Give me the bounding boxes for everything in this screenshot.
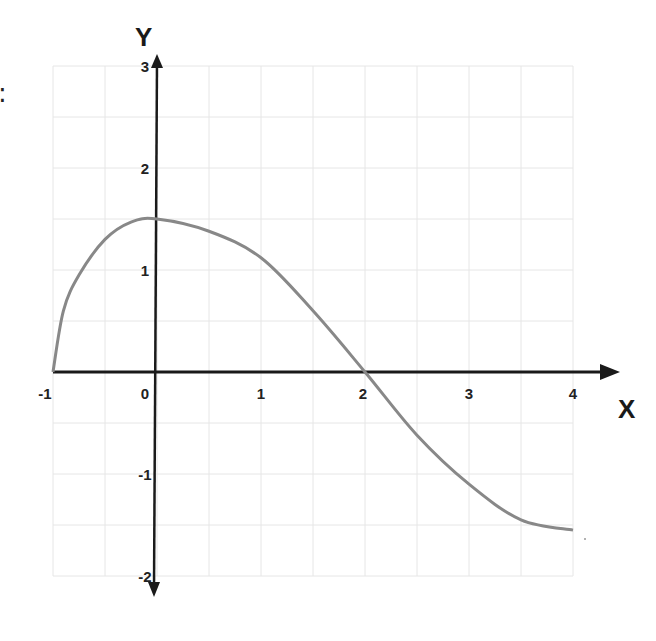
x-axis-label: X [618, 394, 636, 424]
x-tick-label: 0 [141, 385, 149, 402]
y-tick-label: -2 [138, 568, 151, 585]
x-tick-label: 2 [359, 385, 367, 402]
y-axis-arrow-up-icon [151, 54, 163, 68]
stray-dot [584, 538, 586, 540]
x-tick-label: 4 [569, 385, 578, 402]
y-tick-label: -1 [138, 466, 151, 483]
y-axis-label: Y [135, 22, 152, 52]
y-tick-label: 3 [141, 58, 149, 75]
grid-lines [53, 66, 573, 576]
x-tick-label: -1 [38, 385, 51, 402]
y-tick-label: 1 [141, 262, 149, 279]
y-tick-label: 2 [141, 160, 149, 177]
x-tick-label: 1 [257, 385, 265, 402]
x-tick-label: 3 [465, 385, 473, 402]
x-axis-arrow-icon [600, 364, 620, 380]
axes [53, 54, 620, 597]
chart: -101234-2-1123 X Y [0, 0, 656, 641]
